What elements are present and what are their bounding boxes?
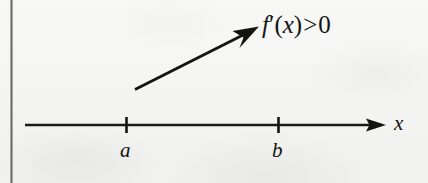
tick-label-a: a xyxy=(120,140,131,161)
x-axis-label: x xyxy=(394,113,403,134)
comparison-value: 0 xyxy=(318,11,331,38)
open-paren: ( xyxy=(274,11,282,38)
increasing-slope-arrow-shaft xyxy=(135,33,247,90)
tick-label-b: b xyxy=(272,140,283,161)
number-line-diagram xyxy=(0,0,428,183)
close-paren: ) xyxy=(294,11,302,38)
function-symbol: f xyxy=(262,11,269,38)
variable-symbol: x xyxy=(283,11,294,38)
relation-symbol: > xyxy=(302,11,318,38)
derivative-positive-label: f′(x)>0 xyxy=(262,12,331,37)
figure-container: f′(x)>0 a b x xyxy=(0,0,428,183)
